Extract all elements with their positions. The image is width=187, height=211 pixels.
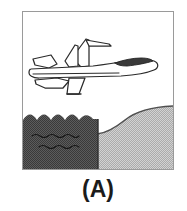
scene-frame: [22, 11, 174, 170]
scene-illustration: [23, 12, 173, 169]
water-shape: [23, 115, 98, 170]
figure-caption: (A): [22, 172, 174, 206]
figure-panel: (A): [0, 0, 187, 211]
main-wing: [35, 78, 69, 88]
